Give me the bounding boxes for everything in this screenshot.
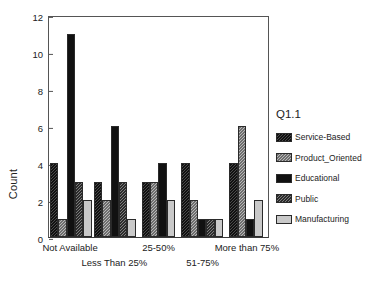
bar bbox=[142, 182, 150, 238]
bar bbox=[181, 163, 189, 237]
x-axis-label: Less Than 25% bbox=[81, 257, 147, 268]
bar bbox=[215, 219, 223, 238]
legend-item-public: Public bbox=[276, 194, 376, 204]
bar bbox=[246, 219, 254, 238]
bar bbox=[254, 200, 262, 237]
legend-swatch bbox=[276, 174, 292, 183]
bar-group bbox=[93, 17, 137, 237]
plot-area: 024681012 bbox=[48, 16, 269, 238]
x-axis-label: 25-50% bbox=[142, 242, 175, 253]
bar bbox=[83, 200, 91, 237]
legend-label: Product_Oriented bbox=[295, 153, 362, 163]
bar-group bbox=[224, 17, 268, 237]
bar bbox=[229, 163, 237, 237]
y-tick-4: 4 bbox=[38, 160, 49, 171]
bar bbox=[111, 126, 119, 237]
y-tick-8: 8 bbox=[38, 86, 49, 97]
bar bbox=[58, 219, 66, 238]
bar bbox=[119, 182, 127, 238]
y-tick-12: 12 bbox=[32, 12, 49, 23]
legend-label: Manufacturing bbox=[295, 214, 349, 224]
legend-item-service-based: Service-Based bbox=[276, 132, 376, 142]
bar bbox=[206, 219, 214, 238]
bar bbox=[50, 163, 58, 237]
bar-group bbox=[180, 17, 224, 237]
bar bbox=[94, 182, 102, 238]
bar bbox=[127, 219, 135, 238]
x-axis-label: More than 75% bbox=[215, 242, 279, 253]
legend-swatch bbox=[276, 153, 292, 162]
bar-chart: Count 024681012 Not AvailableLess Than 2… bbox=[0, 0, 378, 296]
y-axis-title: Count bbox=[7, 149, 19, 219]
bar bbox=[102, 200, 110, 237]
bar bbox=[150, 182, 158, 238]
legend-label: Educational bbox=[295, 173, 339, 183]
bar bbox=[190, 200, 198, 237]
legend: Q1.1 Service-BasedProduct_OrientedEducat… bbox=[276, 108, 376, 235]
legend-swatch bbox=[276, 133, 292, 142]
y-tick-6: 6 bbox=[38, 123, 49, 134]
bar bbox=[75, 182, 83, 238]
legend-title: Q1.1 bbox=[276, 108, 376, 120]
y-tick-2: 2 bbox=[38, 197, 49, 208]
bar-group bbox=[137, 17, 181, 237]
bar bbox=[67, 34, 75, 238]
bar bbox=[198, 219, 206, 238]
x-axis-label: Not Available bbox=[42, 242, 97, 253]
bar-group bbox=[49, 17, 93, 237]
bar bbox=[238, 126, 246, 237]
x-axis-label: 51-75% bbox=[186, 257, 219, 268]
legend-label: Service-Based bbox=[295, 132, 350, 142]
legend-label: Public bbox=[295, 194, 318, 204]
x-axis-labels: Not AvailableLess Than 25%25-50%51-75%Mo… bbox=[48, 240, 269, 280]
bar-groups bbox=[49, 17, 268, 237]
legend-item-manufacturing: Manufacturing bbox=[276, 214, 376, 224]
legend-swatch bbox=[276, 194, 292, 203]
legend-swatch bbox=[276, 215, 292, 224]
legend-item-product-oriented: Product_Oriented bbox=[276, 153, 376, 163]
bar bbox=[167, 200, 175, 237]
legend-item-educational: Educational bbox=[276, 173, 376, 183]
y-tick-10: 10 bbox=[32, 49, 49, 60]
bar bbox=[158, 163, 166, 237]
